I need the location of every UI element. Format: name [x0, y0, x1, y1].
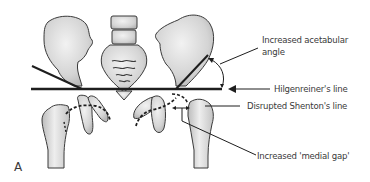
hip-dysplasia-diagram: Increased acetabular angle Hilgenreiner'… [0, 0, 370, 182]
label-acetabular-angle: Increased acetabular angle [262, 34, 348, 58]
medial-gap-arrow [172, 106, 256, 155]
acetabular-angle-arc [208, 48, 258, 88]
right-ilium [155, 15, 213, 86]
left-femur [42, 105, 70, 168]
sacrum [101, 45, 146, 100]
panel-label: A [14, 160, 22, 174]
hilgenreiner-arrow [228, 85, 270, 93]
left-pubis-ischium [77, 95, 108, 134]
label-hilgenreiners-line: Hilgenreiner's line [274, 83, 348, 95]
label-acetabular-angle-line2: angle [262, 46, 348, 58]
label-increased-medial-gap: Increased 'medial gap' [257, 150, 349, 162]
label-disrupted-shentons-line: Disrupted Shenton's line [247, 100, 347, 112]
right-pubis-ischium [134, 96, 166, 133]
lumbar-vertebrae [111, 16, 137, 44]
label-acetabular-angle-line1: Increased acetabular [262, 34, 348, 46]
